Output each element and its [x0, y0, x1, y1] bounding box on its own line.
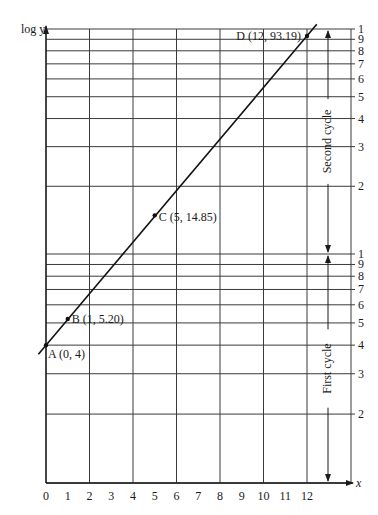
first-cycle-label: First cycle — [320, 343, 334, 393]
y-tick-label: 5 — [358, 90, 364, 104]
semi-log-graph: 0123456789101112234567891234567891 Secon… — [0, 0, 378, 515]
y-tick-label: 7 — [358, 57, 364, 71]
x-tick-label: 9 — [239, 489, 245, 503]
arrow-up-icon — [325, 255, 331, 263]
x-axis-label: x — [355, 476, 362, 490]
point-label: B (1, 5.20) — [72, 312, 124, 326]
y-tick-label: 6 — [358, 298, 364, 312]
arrow-up-icon — [325, 30, 331, 38]
x-axis-arrow-icon — [346, 480, 354, 486]
arrow-down-icon — [325, 245, 331, 253]
y-tick-label: 6 — [358, 72, 364, 86]
x-tick-label: 1 — [65, 489, 71, 503]
x-tick-label: 5 — [152, 489, 158, 503]
x-tick-label: 2 — [87, 489, 93, 503]
data-point — [153, 213, 157, 217]
y-tick-label: 7 — [358, 282, 364, 296]
y-tick-label: 3 — [358, 367, 364, 381]
y-tick-label: 2 — [358, 179, 364, 193]
grid-lines — [46, 29, 351, 483]
y-tick-label: 1 — [358, 22, 364, 36]
data-point — [66, 317, 70, 321]
point-label: D (12, 93.19) — [236, 29, 301, 43]
x-tick-label: 0 — [43, 489, 49, 503]
y-tick-label: 2 — [358, 407, 364, 421]
x-tick-label: 10 — [258, 489, 270, 503]
data-point — [305, 34, 309, 38]
x-tick-label: 4 — [130, 489, 136, 503]
point-label: C (5, 14.85) — [159, 210, 217, 224]
x-tick-label: 11 — [279, 489, 291, 503]
y-tick-label: 4 — [358, 112, 364, 126]
y-tick-label: 3 — [358, 140, 364, 154]
arrow-down-icon — [325, 474, 331, 482]
second-cycle-label: Second cycle — [320, 110, 334, 174]
x-tick-label: 7 — [195, 489, 201, 503]
x-tick-label: 8 — [217, 489, 223, 503]
x-tick-label: 6 — [174, 489, 180, 503]
x-tick-label: 12 — [301, 489, 313, 503]
tick-labels: 0123456789101112234567891234567891 — [43, 22, 364, 503]
y-tick-label: 5 — [358, 316, 364, 330]
y-tick-label: 4 — [358, 338, 364, 352]
y-tick-label: 1 — [358, 247, 364, 261]
point-label: A (0, 4) — [48, 347, 85, 361]
x-tick-label: 3 — [108, 489, 114, 503]
y-axis-label: log y — [21, 22, 45, 36]
